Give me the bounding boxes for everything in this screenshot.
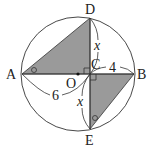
length-label-CE: x — [76, 94, 84, 109]
arc-CD-length — [90, 18, 98, 40]
geometry-diagram: D E A B O C 4 6 x x — [0, 0, 152, 149]
triangle-ACD — [22, 18, 90, 74]
arc-CE-length — [82, 74, 90, 96]
length-label-AC: 6 — [52, 88, 59, 103]
center-point-O — [76, 72, 79, 75]
label-B: B — [137, 67, 146, 82]
label-D: D — [85, 2, 95, 17]
arc-CE-length-2 — [82, 108, 90, 129]
label-C: C — [91, 57, 100, 72]
arc-AC-length — [22, 74, 50, 95]
length-label-CD: x — [93, 38, 101, 53]
arc-CB-length-2 — [120, 67, 134, 74]
label-O: O — [66, 76, 76, 91]
label-A: A — [6, 67, 17, 82]
triangle-BCE — [90, 74, 134, 129]
length-label-CB: 4 — [109, 60, 116, 75]
label-E: E — [85, 133, 94, 148]
